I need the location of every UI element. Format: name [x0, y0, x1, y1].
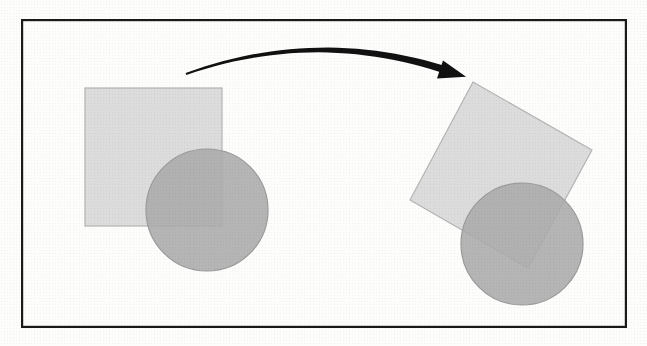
figure-root	[0, 0, 647, 346]
source-circle	[146, 149, 268, 271]
figure-canvas	[0, 0, 647, 346]
target-circle	[461, 183, 583, 305]
